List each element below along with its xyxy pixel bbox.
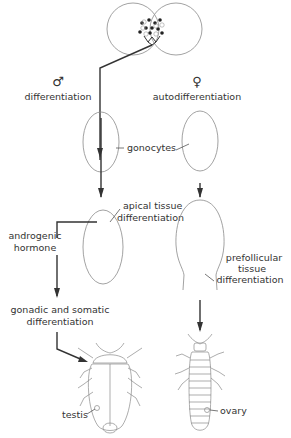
female-gonad-stage1 xyxy=(182,111,218,171)
gonocytes-label: gonocytes xyxy=(127,142,176,153)
male-differentiation-label: differentiation xyxy=(24,91,91,102)
testis-label: testis xyxy=(62,409,88,420)
antenna xyxy=(96,343,124,353)
hormone-label: hormone xyxy=(14,242,57,253)
arrowhead xyxy=(78,356,88,362)
arrowhead xyxy=(98,188,104,198)
female-adult-insect xyxy=(175,334,225,430)
female-symbol: ♀ xyxy=(192,74,202,89)
prefollicular-label-line2: tissue xyxy=(238,263,266,274)
androgenic-hormone-connector xyxy=(57,222,97,238)
ovary-mark xyxy=(205,408,210,413)
insect-body xyxy=(189,352,211,430)
germ-cell xyxy=(138,30,142,34)
male-symbol: ♂ xyxy=(52,74,64,89)
gonad-primordium xyxy=(107,3,202,55)
gonadic-somatic-label-line2: differentiation xyxy=(26,316,93,327)
arrowhead xyxy=(97,148,103,158)
germ-cell xyxy=(148,31,152,35)
prefollicular-label-line1: prefollicular xyxy=(226,252,282,263)
arrowhead xyxy=(197,322,203,332)
germ-cell-outline xyxy=(144,32,148,36)
left-legs xyxy=(175,354,190,390)
germ-cell xyxy=(158,18,162,22)
sex-differentiation-diagram: ♂ differentiation ♀ autodifferentiation … xyxy=(0,0,291,438)
right-legs xyxy=(210,352,225,390)
germ-cell-outline xyxy=(154,32,158,36)
ovary-label: ovary xyxy=(220,405,247,416)
germ-cell xyxy=(160,31,164,35)
antenna xyxy=(188,334,212,344)
ovary-pointer xyxy=(210,410,218,411)
insect-head xyxy=(194,343,206,351)
germ-cell xyxy=(156,27,160,31)
right-legs xyxy=(127,368,142,406)
arrowhead xyxy=(197,188,203,198)
prefollicular-pointer xyxy=(205,274,214,281)
apical-tissue-label-line1: apical tissue xyxy=(123,200,182,211)
germ-cell xyxy=(150,26,154,30)
testis-mark xyxy=(95,406,100,411)
female-autodifferentiation-label: autodifferentiation xyxy=(153,91,241,102)
left-legs xyxy=(78,368,93,406)
apical-tissue-label-line2: differentiation xyxy=(117,212,184,223)
arrowhead xyxy=(54,288,60,298)
germ-cell xyxy=(147,18,151,22)
insect-head xyxy=(93,355,127,363)
gonadic-somatic-label-line1: gonadic and somatic xyxy=(11,304,110,315)
prefollicular-label-line3: differentiation xyxy=(216,274,283,285)
germ-cell-outline xyxy=(160,23,164,27)
androgenic-label: androgenic xyxy=(8,230,61,241)
